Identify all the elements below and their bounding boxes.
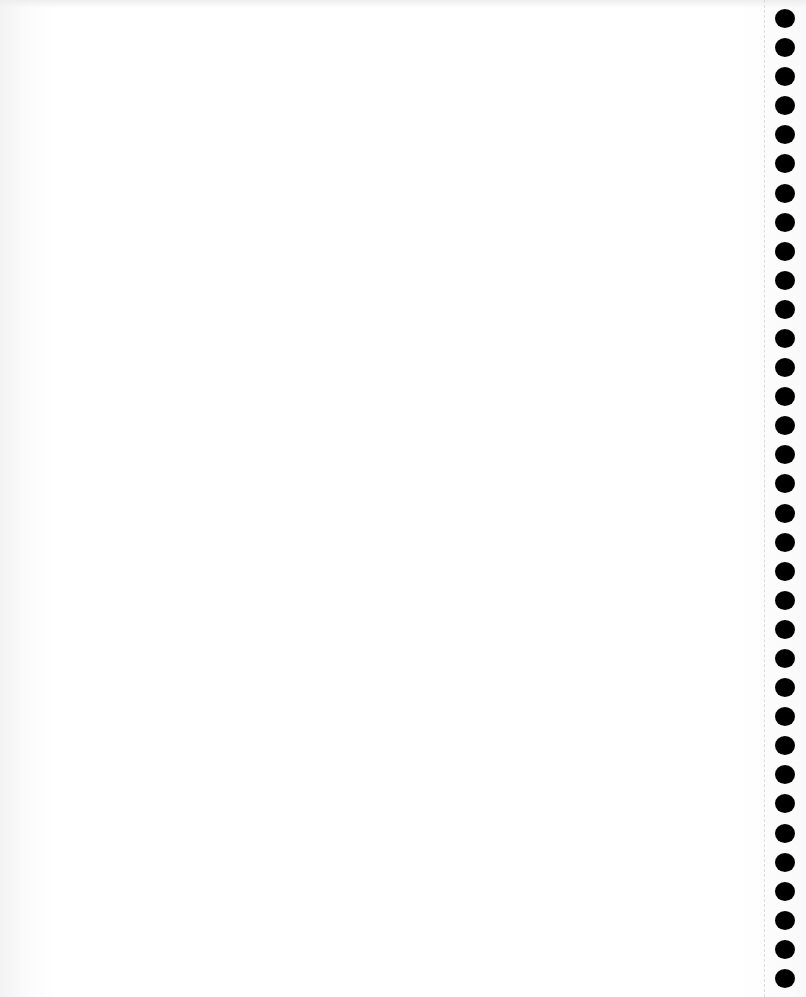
binding-hole-icon bbox=[775, 794, 795, 813]
binding-hole-icon bbox=[775, 649, 795, 668]
binding-hole-icon bbox=[775, 9, 795, 28]
binding-hole-icon bbox=[775, 67, 795, 86]
binding-hole-icon bbox=[775, 329, 795, 348]
perforation-line bbox=[764, 0, 765, 997]
binding-hole-icon bbox=[775, 736, 795, 755]
binding-hole-icon bbox=[775, 387, 795, 406]
binding-hole-icon bbox=[775, 824, 795, 843]
binding-hole-icon bbox=[775, 969, 795, 988]
binding-hole-icon bbox=[775, 213, 795, 232]
binding-hole-icon bbox=[775, 38, 795, 57]
binding-hole-icon bbox=[775, 154, 795, 173]
binding-hole-icon bbox=[775, 678, 795, 697]
binding-hole-icon bbox=[775, 707, 795, 726]
binding-hole-icon bbox=[775, 271, 795, 290]
binding-hole-icon bbox=[775, 504, 795, 523]
binding-hole-icon bbox=[775, 940, 795, 959]
binding-hole-icon bbox=[775, 242, 795, 261]
binding-hole-icon bbox=[775, 853, 795, 872]
binding-hole-icon bbox=[775, 184, 795, 203]
binding-holes bbox=[775, 0, 797, 997]
binding-hole-icon bbox=[775, 445, 795, 464]
binding-hole-icon bbox=[775, 591, 795, 610]
page-content-area bbox=[40, 30, 740, 970]
binding-hole-icon bbox=[775, 416, 795, 435]
binding-hole-icon bbox=[775, 911, 795, 930]
binding-hole-icon bbox=[775, 358, 795, 377]
binding-hole-icon bbox=[775, 882, 795, 901]
binding-hole-icon bbox=[775, 474, 795, 493]
binding-hole-icon bbox=[775, 125, 795, 144]
binding-hole-icon bbox=[775, 562, 795, 581]
notebook-page bbox=[0, 0, 806, 997]
binding-hole-icon bbox=[775, 300, 795, 319]
binding-hole-icon bbox=[775, 533, 795, 552]
binding-hole-icon bbox=[775, 96, 795, 115]
binding-hole-icon bbox=[775, 620, 795, 639]
binding-hole-icon bbox=[775, 765, 795, 784]
